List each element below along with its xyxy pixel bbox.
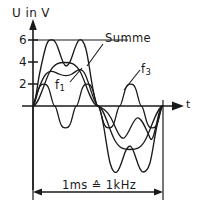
harmonic-label-subscript: 3 bbox=[145, 67, 150, 77]
y-tick-label-6: 6 bbox=[19, 33, 27, 47]
y-tick-label-4: 4 bbox=[19, 55, 27, 69]
summe-leader-line bbox=[87, 44, 103, 66]
y-tick-label-2: 2 bbox=[19, 77, 27, 91]
fundamental-curve-label: f1 bbox=[55, 78, 65, 93]
x-axis-title: t bbox=[186, 98, 191, 111]
f1-leader-line bbox=[70, 68, 82, 82]
fundamental-curve bbox=[33, 70, 163, 140]
third-harmonic-curve-label: f3 bbox=[141, 62, 151, 77]
y-axis-title: U in V bbox=[12, 6, 50, 20]
fundamental-label-subscript: 1 bbox=[59, 83, 64, 93]
figure-canvas: U in V 6 4 2 t Summe f1 f3 1ms ≙ 1kHz bbox=[0, 0, 200, 214]
sum-curve-label: Summe bbox=[105, 31, 151, 45]
period-span-caption: 1ms ≙ 1kHz bbox=[62, 178, 136, 192]
f3-leader-line bbox=[124, 70, 140, 90]
